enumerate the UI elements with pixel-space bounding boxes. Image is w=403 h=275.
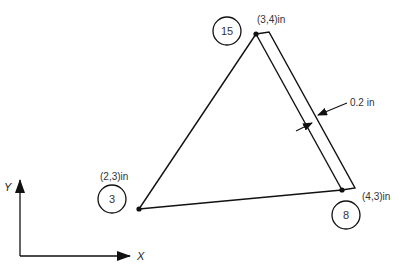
node-3-number: 3: [109, 193, 115, 205]
node-15-number: 15: [221, 25, 233, 37]
node-8-point: [339, 187, 344, 192]
node-3-point: [136, 206, 141, 211]
x-axis-label: X: [136, 250, 145, 262]
thickness-strip: [256, 32, 355, 190]
node-15-point: [253, 31, 258, 36]
node-8-coord-label: (4,3)in: [362, 191, 390, 202]
edge-15-3: [139, 34, 256, 209]
node-3-coord-label: (2,3)in: [100, 171, 128, 182]
thickness-arrow-outer: [318, 103, 347, 115]
edge-15-8: [256, 34, 342, 190]
node-15-coord-label: (3,4)in: [257, 14, 285, 25]
y-axis-label: Y: [4, 181, 12, 193]
thickness-label: 0.2 in: [350, 97, 374, 108]
element-diagram: 15 3 8 (3,4)in (2,3)in (4,3)in 0.2 in Y …: [0, 0, 403, 275]
edge-3-8: [139, 190, 342, 209]
node-8-number: 8: [343, 209, 349, 221]
